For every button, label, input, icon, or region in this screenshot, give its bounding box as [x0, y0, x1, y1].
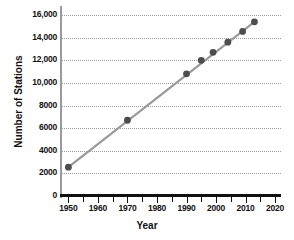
- data-point: [65, 164, 72, 171]
- data-point: [198, 57, 205, 64]
- chart-figure: 0200040006000800010,00012,00014,00016,00…: [0, 0, 294, 240]
- y-axis-title: Number of Stations: [13, 32, 24, 172]
- data-point: [183, 70, 190, 77]
- data-point: [124, 117, 131, 124]
- data-point: [210, 49, 217, 56]
- data-point: [239, 28, 246, 35]
- x-axis-title: Year: [0, 220, 294, 231]
- data-series-layer: [0, 0, 294, 240]
- data-point: [224, 39, 231, 46]
- data-point: [251, 18, 258, 25]
